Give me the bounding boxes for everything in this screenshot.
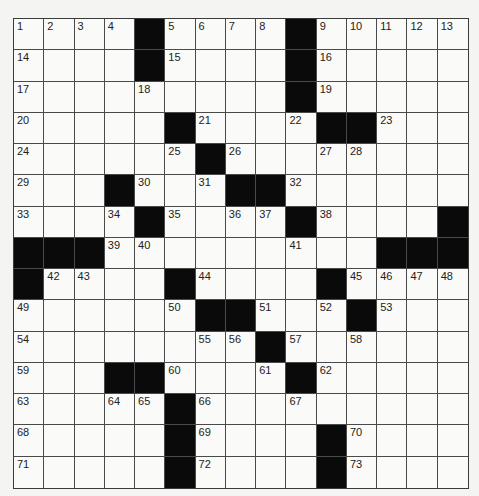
crossword-cell[interactable] xyxy=(438,332,468,363)
crossword-cell[interactable] xyxy=(256,144,286,175)
crossword-cell[interactable]: 46 xyxy=(377,269,407,300)
crossword-cell[interactable] xyxy=(256,238,286,269)
crossword-cell[interactable]: 21 xyxy=(196,113,226,144)
crossword-cell[interactable]: 32 xyxy=(286,175,316,206)
crossword-cell[interactable] xyxy=(286,425,316,456)
crossword-cell[interactable]: 15 xyxy=(165,50,195,81)
crossword-cell[interactable] xyxy=(44,175,74,206)
crossword-cell[interactable] xyxy=(44,300,74,331)
crossword-cell[interactable]: 35 xyxy=(165,207,195,238)
crossword-cell[interactable] xyxy=(44,207,74,238)
crossword-cell[interactable] xyxy=(377,144,407,175)
crossword-cell[interactable]: 27 xyxy=(317,144,347,175)
crossword-cell[interactable] xyxy=(105,144,135,175)
crossword-cell[interactable] xyxy=(75,363,105,394)
crossword-cell[interactable] xyxy=(438,175,468,206)
crossword-cell[interactable] xyxy=(135,457,165,488)
crossword-cell[interactable]: 2 xyxy=(44,19,74,50)
crossword-cell[interactable]: 19 xyxy=(317,82,347,113)
crossword-cell[interactable]: 56 xyxy=(226,332,256,363)
crossword-cell[interactable] xyxy=(75,425,105,456)
crossword-cell[interactable] xyxy=(317,175,347,206)
crossword-cell[interactable]: 66 xyxy=(196,394,226,425)
crossword-cell[interactable] xyxy=(75,300,105,331)
crossword-cell[interactable]: 20 xyxy=(14,113,44,144)
crossword-cell[interactable] xyxy=(256,394,286,425)
crossword-cell[interactable] xyxy=(286,269,316,300)
crossword-cell[interactable] xyxy=(438,363,468,394)
crossword-cell[interactable] xyxy=(44,82,74,113)
crossword-cell[interactable]: 10 xyxy=(347,19,377,50)
crossword-cell[interactable]: 8 xyxy=(256,19,286,50)
crossword-cell[interactable]: 64 xyxy=(105,394,135,425)
crossword-cell[interactable]: 7 xyxy=(226,19,256,50)
crossword-cell[interactable] xyxy=(438,394,468,425)
crossword-cell[interactable]: 11 xyxy=(377,19,407,50)
crossword-cell[interactable] xyxy=(226,363,256,394)
crossword-cell[interactable]: 22 xyxy=(286,113,316,144)
crossword-cell[interactable]: 14 xyxy=(14,50,44,81)
crossword-cell[interactable] xyxy=(196,207,226,238)
crossword-cell[interactable] xyxy=(347,50,377,81)
crossword-cell[interactable] xyxy=(347,207,377,238)
crossword-cell[interactable] xyxy=(438,144,468,175)
crossword-cell[interactable]: 38 xyxy=(317,207,347,238)
crossword-cell[interactable] xyxy=(105,300,135,331)
crossword-cell[interactable] xyxy=(44,394,74,425)
crossword-cell[interactable]: 12 xyxy=(407,19,437,50)
crossword-cell[interactable] xyxy=(317,238,347,269)
crossword-cell[interactable] xyxy=(105,457,135,488)
crossword-cell[interactable] xyxy=(44,425,74,456)
crossword-cell[interactable] xyxy=(196,363,226,394)
crossword-cell[interactable] xyxy=(407,363,437,394)
crossword-cell[interactable]: 24 xyxy=(14,144,44,175)
crossword-cell[interactable] xyxy=(438,425,468,456)
crossword-cell[interactable] xyxy=(226,238,256,269)
crossword-cell[interactable] xyxy=(226,269,256,300)
crossword-cell[interactable] xyxy=(75,175,105,206)
crossword-cell[interactable] xyxy=(135,113,165,144)
crossword-cell[interactable]: 73 xyxy=(347,457,377,488)
crossword-cell[interactable] xyxy=(377,363,407,394)
crossword-cell[interactable]: 29 xyxy=(14,175,44,206)
crossword-cell[interactable]: 62 xyxy=(317,363,347,394)
crossword-cell[interactable] xyxy=(377,50,407,81)
crossword-cell[interactable] xyxy=(226,394,256,425)
crossword-cell[interactable]: 1 xyxy=(14,19,44,50)
crossword-cell[interactable]: 52 xyxy=(317,300,347,331)
crossword-cell[interactable]: 28 xyxy=(347,144,377,175)
crossword-cell[interactable]: 72 xyxy=(196,457,226,488)
crossword-cell[interactable] xyxy=(226,425,256,456)
crossword-cell[interactable]: 69 xyxy=(196,425,226,456)
crossword-cell[interactable] xyxy=(407,175,437,206)
crossword-cell[interactable]: 50 xyxy=(165,300,195,331)
crossword-cell[interactable]: 71 xyxy=(14,457,44,488)
crossword-cell[interactable] xyxy=(165,332,195,363)
crossword-cell[interactable]: 45 xyxy=(347,269,377,300)
crossword-cell[interactable] xyxy=(347,82,377,113)
crossword-cell[interactable] xyxy=(196,82,226,113)
crossword-cell[interactable] xyxy=(75,457,105,488)
crossword-cell[interactable] xyxy=(347,175,377,206)
crossword-cell[interactable] xyxy=(75,113,105,144)
crossword-cell[interactable]: 59 xyxy=(14,363,44,394)
crossword-cell[interactable]: 18 xyxy=(135,82,165,113)
crossword-cell[interactable]: 37 xyxy=(256,207,286,238)
crossword-cell[interactable]: 68 xyxy=(14,425,44,456)
crossword-cell[interactable]: 61 xyxy=(256,363,286,394)
crossword-cell[interactable] xyxy=(407,425,437,456)
crossword-cell[interactable] xyxy=(105,425,135,456)
crossword-cell[interactable] xyxy=(135,332,165,363)
crossword-cell[interactable]: 58 xyxy=(347,332,377,363)
crossword-cell[interactable] xyxy=(377,457,407,488)
crossword-cell[interactable] xyxy=(165,175,195,206)
crossword-cell[interactable] xyxy=(105,113,135,144)
crossword-cell[interactable] xyxy=(105,269,135,300)
crossword-cell[interactable] xyxy=(75,332,105,363)
crossword-cell[interactable] xyxy=(105,332,135,363)
crossword-cell[interactable] xyxy=(75,394,105,425)
crossword-cell[interactable]: 40 xyxy=(135,238,165,269)
crossword-cell[interactable] xyxy=(407,82,437,113)
crossword-cell[interactable] xyxy=(226,82,256,113)
crossword-cell[interactable]: 6 xyxy=(196,19,226,50)
